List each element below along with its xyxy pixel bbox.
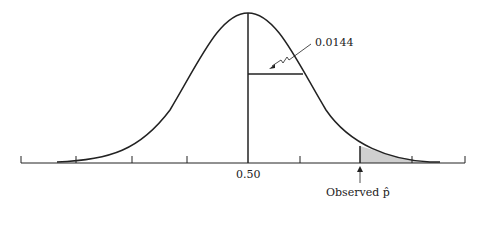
center-label: 0.50: [236, 168, 261, 181]
sd-leader-arrow: [269, 64, 275, 69]
sd-label: 0.0144: [315, 36, 354, 49]
observed-label: Observed p̂: [326, 186, 390, 199]
observed-arrowhead: [357, 166, 363, 172]
sd-leader: [272, 44, 311, 66]
